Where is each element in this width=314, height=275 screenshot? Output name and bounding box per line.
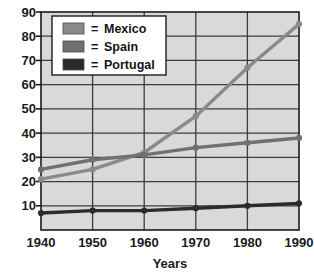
y-axis-tick-labels: 102030405060708090 [22, 5, 36, 214]
data-point-mexico-1990 [296, 21, 302, 27]
data-point-spain-1960 [141, 152, 147, 158]
line-chart: 102030405060708090 194019501960197019801… [0, 0, 314, 275]
data-point-spain-1990 [296, 135, 302, 141]
data-point-mexico-1970 [193, 113, 199, 119]
legend-equals-sign: = [91, 58, 98, 72]
data-point-mexico-1940 [38, 176, 44, 182]
data-point-portugal-1960 [141, 208, 147, 214]
legend-swatch-mexico [63, 23, 84, 34]
data-point-portugal-1990 [296, 200, 302, 206]
y-tick-label: 80 [22, 29, 36, 44]
x-axis-title: Years [153, 256, 188, 271]
chart-canvas: 102030405060708090 194019501960197019801… [0, 0, 314, 275]
data-point-spain-1970 [193, 145, 199, 151]
data-point-mexico-1950 [90, 166, 96, 172]
data-point-portugal-1970 [193, 205, 199, 211]
legend-swatch-spain [63, 41, 84, 52]
y-tick-label: 50 [22, 101, 36, 116]
data-point-portugal-1940 [38, 210, 44, 216]
y-tick-label: 40 [22, 126, 36, 141]
y-tick-label: 10 [22, 198, 36, 213]
data-point-mexico-1980 [244, 65, 250, 71]
legend-equals-sign: = [91, 22, 98, 36]
legend-equals-sign: = [91, 40, 98, 54]
data-point-spain-1980 [244, 140, 250, 146]
x-tick-label: 1960 [130, 235, 159, 250]
legend-swatch-portugal [63, 59, 84, 70]
x-tick-label: 1940 [27, 235, 56, 250]
x-tick-label: 1970 [181, 235, 210, 250]
legend-label-spain: Spain [104, 40, 138, 54]
x-tick-label: 1950 [78, 235, 107, 250]
y-tick-label: 30 [22, 150, 36, 165]
data-point-spain-1940 [38, 166, 44, 172]
y-tick-label: 70 [22, 53, 36, 68]
data-point-spain-1950 [90, 157, 96, 163]
chart-legend: =Mexico=Spain=Portugal [52, 16, 166, 75]
y-tick-label: 20 [22, 174, 36, 189]
legend-label-portugal: Portugal [104, 58, 155, 72]
data-point-portugal-1950 [90, 208, 96, 214]
data-point-portugal-1980 [244, 203, 250, 209]
legend-label-mexico: Mexico [104, 22, 147, 36]
x-tick-label: 1990 [285, 235, 314, 250]
y-tick-label: 90 [22, 5, 36, 20]
x-tick-label: 1980 [233, 235, 262, 250]
x-axis-tick-labels: 194019501960197019801990 [27, 235, 314, 250]
y-tick-label: 60 [22, 77, 36, 92]
